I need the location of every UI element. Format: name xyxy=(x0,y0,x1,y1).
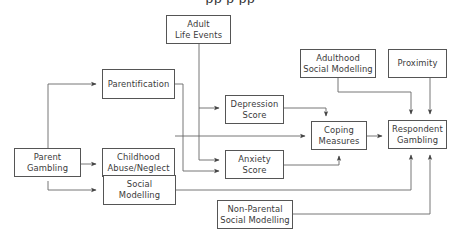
node-respondent-gambling: Respondent Gambling xyxy=(388,120,447,149)
node-parent-gambling: Parent Gambling xyxy=(14,148,81,177)
node-childhood-abuse-neglect: Childhood Abuse/Neglect xyxy=(102,148,175,177)
edge-anxiety-to-coping xyxy=(284,156,339,165)
edge-adulthood-to-respondent xyxy=(338,78,411,114)
edge-depression-to-coping xyxy=(284,108,326,116)
edge-adult-to-depression xyxy=(199,44,219,108)
node-non-parental-social-modelling: Non-Parental Social Modelling xyxy=(217,200,293,229)
edge-parentification-to-anxiety xyxy=(175,84,219,171)
node-depression-score: Depression Score xyxy=(225,95,284,124)
edge-nonparental-to-respondent xyxy=(293,155,430,214)
node-anxiety-score: Anxiety Score xyxy=(225,150,284,179)
edge-adult-to-anxiety xyxy=(199,108,219,160)
node-social-modelling: Social Modelling xyxy=(103,175,176,205)
node-adulthood-social-modelling: Adulthood Social Modelling xyxy=(300,49,376,78)
node-parentification: Parentification xyxy=(102,69,175,99)
edge-parent-to-social xyxy=(48,181,96,190)
node-proximity: Proximity xyxy=(388,49,447,78)
edge-parent-to-parentification xyxy=(48,84,96,148)
node-adult-life-events: Adult Life Events xyxy=(166,15,231,44)
node-coping-measures: Coping Measures xyxy=(311,121,367,150)
